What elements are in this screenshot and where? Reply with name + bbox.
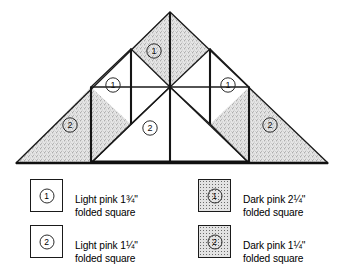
legend-swatch-dark-1: 1 — [198, 179, 231, 212]
legend-item-light-1: 1 Light pink 1¾" folded square — [30, 178, 190, 218]
legend-swatch-light-2: 2 — [30, 225, 63, 258]
quilt-block-diagram: 1 1 1 2 2 2 — [0, 0, 338, 176]
legend-label-line1: Light pink 1¾" — [75, 194, 138, 205]
legend-swatch-dark-2: 2 — [198, 225, 231, 258]
legend-label-line2: folded square — [75, 253, 138, 265]
legend-swatch-number: 1 — [39, 188, 54, 203]
legend-label-line1: Dark pink 1¼" — [243, 240, 305, 251]
legend-item-dark-2: 2 Dark pink 1¼" folded square — [198, 224, 338, 264]
legend-label-line1: Light pink 1¼" — [75, 240, 138, 251]
legend-label-dark-2: Dark pink 1¼" folded square — [243, 224, 305, 272]
legend-label-line2: folded square — [75, 207, 138, 219]
callout-right-inner-label: 1 — [225, 80, 230, 90]
legend-swatch-number: 1 — [207, 188, 222, 203]
legend-item-dark-1: 1 Dark pink 2¼" folded square — [198, 178, 338, 218]
legend-swatch-light-1: 1 — [30, 179, 63, 212]
legend-swatch-number: 2 — [39, 234, 54, 249]
legend-label-line1: Dark pink 2¼" — [243, 194, 305, 205]
legend-label-light-2: Light pink 1¼" folded square — [75, 224, 138, 272]
callout-peak-center-label: 1 — [151, 46, 156, 56]
callout-left-outer-label: 2 — [67, 120, 72, 130]
legend-swatch-number: 2 — [207, 234, 222, 249]
callout-right-outer-label: 2 — [267, 120, 272, 130]
diagram-page: 1 1 1 2 2 2 — [0, 0, 338, 272]
legend-column-dark-pink: 1 Dark pink 2¼" folded square 2 Dark pin… — [198, 176, 338, 272]
legend-item-light-2: 2 Light pink 1¼" folded square — [30, 224, 190, 264]
legend-label-line2: folded square — [243, 253, 305, 265]
legend-column-light-pink: 1 Light pink 1¾" folded square 2 Light p… — [30, 176, 190, 272]
callout-center-base-label: 2 — [147, 123, 152, 133]
callout-left-inner-label: 1 — [110, 80, 115, 90]
legend: 1 Light pink 1¾" folded square 2 Light p… — [0, 176, 338, 272]
legend-label-line2: folded square — [243, 207, 305, 219]
